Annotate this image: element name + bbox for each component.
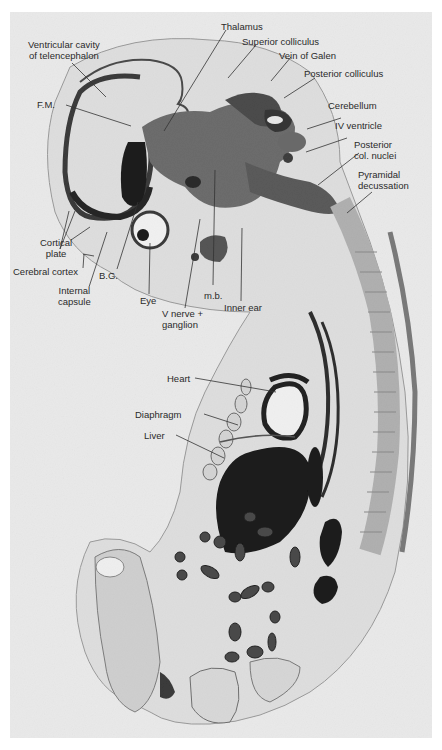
- label-posterior-colliculus: Posterior colliculus: [304, 68, 383, 79]
- label-fm: F.M.: [37, 99, 55, 110]
- label-mb: m.b.: [204, 290, 222, 301]
- label-vein-of-galen: Vein of Galen: [279, 50, 336, 61]
- label-line: of telencephalon: [28, 50, 100, 61]
- label-eye: Eye: [140, 295, 156, 306]
- cropped-caption: [70, 0, 160, 4]
- label-cortical-plate: Cortical plate: [40, 237, 72, 259]
- label-line: Posterior: [354, 139, 396, 150]
- label-pyramidal-decussation: Pyramidal decussation: [358, 169, 409, 191]
- label-bg: B.G.: [99, 270, 118, 281]
- label-line: capsule: [58, 296, 91, 307]
- label-line: V nerve +: [162, 308, 203, 319]
- label-line: ganglion: [162, 319, 203, 330]
- label-diaphragm: Diaphragm: [135, 409, 181, 420]
- label-iv-ventricle: IV ventricle: [335, 120, 382, 131]
- label-cerebellum: Cerebellum: [328, 100, 377, 111]
- label-ventricular-cavity: Ventricular cavity of telencephalon: [28, 39, 100, 61]
- label-line: decussation: [358, 180, 409, 191]
- label-line: Pyramidal: [358, 169, 409, 180]
- label-line: Cortical: [40, 237, 72, 248]
- label-superior-colliculus: Superior colliculus: [242, 36, 319, 47]
- label-line: Ventricular cavity: [28, 39, 100, 50]
- label-line: col. nuclei: [354, 150, 396, 161]
- label-internal-capsule: Internal capsule: [58, 285, 91, 307]
- label-v-nerve-ganglion: V nerve + ganglion: [162, 308, 203, 330]
- label-thalamus: Thalamus: [221, 21, 263, 32]
- label-posterior-col-nuclei: Posterior col. nuclei: [354, 139, 396, 161]
- label-cerebral-cortex: Cerebral cortex: [13, 266, 78, 277]
- label-line: Internal: [58, 285, 91, 296]
- label-heart: Heart: [167, 373, 190, 384]
- histology-plate: Ventricular cavity of telencephalon F.M.…: [10, 12, 432, 738]
- label-line: plate: [40, 248, 72, 259]
- label-inner-ear: Inner ear: [224, 302, 262, 313]
- label-liver: Liver: [144, 430, 165, 441]
